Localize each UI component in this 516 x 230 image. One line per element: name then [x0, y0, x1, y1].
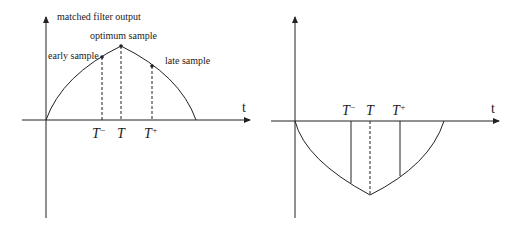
left-x-axis-label: t — [242, 100, 246, 115]
optimum-sample-label: optimum sample — [90, 30, 158, 41]
right-tick-t-minus: T− — [342, 102, 356, 118]
right-tick-t: T — [366, 103, 375, 118]
left-tick-t-minus: T− — [92, 125, 106, 141]
right-curve-falling — [295, 121, 370, 195]
early-late-gate-diagram: matched filter output optimum sample ear… — [0, 0, 516, 230]
early-sample-dot — [100, 55, 104, 59]
optimum-sample-dot — [119, 44, 123, 48]
y-axis-label: matched filter output — [57, 11, 141, 22]
late-sample-label: late sample — [165, 55, 211, 66]
right-x-axis-label: t — [491, 101, 495, 116]
left-tick-t: T — [117, 126, 126, 141]
late-sample-dot — [150, 64, 154, 68]
right-tick-t-plus: T+ — [392, 102, 406, 118]
left-tick-t-plus: T+ — [144, 125, 158, 141]
left-panel: matched filter output optimum sample ear… — [22, 11, 250, 218]
right-curve-rising — [370, 121, 444, 195]
right-panel: t T− T T+ — [271, 17, 499, 218]
early-sample-label: early sample — [48, 50, 99, 61]
